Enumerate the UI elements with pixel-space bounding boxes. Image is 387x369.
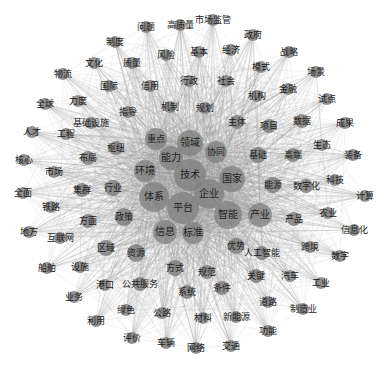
node-label: 全面 — [14, 187, 32, 198]
node-label: 公路 — [153, 307, 171, 318]
node-label: 方式 — [166, 262, 184, 273]
node-label: 成果 — [336, 117, 354, 128]
node-label: 问题 — [137, 21, 155, 32]
node-label: 网络 — [187, 342, 205, 353]
node-label: 规划 — [196, 102, 214, 113]
node-label: 公共服务 — [122, 278, 158, 289]
node-label: 国际 — [100, 81, 118, 91]
node-label: 系统 — [178, 286, 196, 297]
node-label: 基础 — [249, 149, 267, 160]
node-label: 行政 — [180, 75, 198, 86]
node-label: 产品 — [285, 213, 303, 224]
node-label: 产业 — [250, 208, 270, 220]
node-label: 计算 — [356, 190, 374, 201]
node-label: 农业 — [319, 207, 337, 218]
node-label: 市场监管 — [195, 14, 231, 25]
node-label: 枢纽 — [107, 142, 125, 153]
node-label: 人工智能 — [244, 247, 280, 258]
node-label: 材料 — [194, 312, 212, 323]
node-label: 数字化 — [293, 180, 320, 191]
node-label: 信息 — [155, 225, 175, 237]
node-label: 条件 — [213, 282, 231, 293]
node-label: 评价 — [123, 333, 141, 343]
node-label: 指导 — [119, 106, 137, 117]
node-label: 企业 — [199, 187, 219, 199]
node-label: 车辆 — [157, 337, 175, 348]
node-label: 政府 — [244, 29, 262, 40]
node-label: 汽车 — [281, 270, 299, 281]
node-label: 高端 — [284, 149, 302, 160]
node-label: 项目 — [260, 121, 278, 131]
node-label: 绿色 — [117, 304, 135, 315]
node-label: 体系 — [144, 191, 164, 202]
node-label: 质量 — [123, 57, 141, 68]
node-label: 地方 — [20, 226, 38, 237]
node-label: 功能 — [259, 325, 277, 336]
node-label: 社会 — [217, 75, 235, 86]
node-label: 标准 — [183, 227, 203, 238]
node-label: 新能源 — [223, 311, 250, 322]
node-label: 设施 — [71, 261, 89, 272]
node-label: 数字 — [331, 250, 349, 261]
node-label: 模式 — [252, 61, 270, 72]
node-label: 市场 — [45, 166, 63, 177]
node-label: 互联网 — [47, 233, 74, 243]
node-label: 跨境 — [301, 241, 319, 252]
node-label: 国家 — [222, 172, 242, 184]
node-label: 数据 — [293, 115, 311, 126]
node-label: 布局 — [79, 152, 97, 163]
node-label: 方面 — [79, 215, 97, 226]
node-label: 平台 — [173, 201, 193, 213]
node-label: 场景 — [307, 67, 325, 77]
node-label: 规范 — [198, 266, 216, 277]
node-label: 区域 — [97, 242, 115, 253]
node-label: 智能 — [218, 208, 238, 220]
network-graph: 问题高质量市场监管政府制度风险基本经济战略文化质量模式场景物流国际信用行政社会金… — [0, 0, 387, 369]
node-label: 信用 — [141, 80, 159, 91]
node-label: 主体 — [228, 116, 246, 127]
node-label: 核心 — [15, 154, 33, 165]
node-label: 高质量 — [167, 19, 194, 30]
node-label: 领域 — [180, 136, 200, 148]
node-label: 风险 — [157, 49, 175, 60]
node-label: 铁路 — [42, 201, 60, 212]
node-label: 机构 — [248, 90, 266, 101]
node-label: 科技 — [326, 174, 344, 185]
node-label: 金融 — [279, 83, 297, 94]
node-label: 集群 — [73, 184, 91, 195]
node-label: 人才 — [23, 126, 41, 137]
node-label: 港口 — [96, 279, 114, 290]
node-label: 生态 — [313, 139, 331, 150]
node-label: 经济 — [222, 44, 240, 55]
node-label: 基本 — [190, 46, 208, 57]
node-label: 协同 — [207, 146, 225, 157]
node-label: 利用 — [87, 315, 105, 326]
node-label: 技术 — [180, 168, 200, 180]
node-label: 能力 — [161, 151, 181, 163]
node-label: 制造业 — [290, 303, 317, 314]
node-label: 政策 — [115, 211, 133, 222]
node-label: 重点 — [147, 133, 165, 144]
node-label: 试点 — [318, 93, 336, 104]
node-label: 关键 — [247, 270, 265, 281]
node-label: 优势 — [227, 240, 245, 251]
node-label: 制度 — [106, 36, 124, 47]
node-label: 工程 — [57, 129, 75, 139]
node-label: 物流 — [54, 68, 72, 79]
node-label: 环境 — [135, 164, 155, 176]
node-label: 行业 — [104, 182, 122, 193]
node-label: 船舶 — [38, 262, 56, 273]
node-label: 装备 — [344, 149, 362, 160]
node-label: 业务 — [65, 291, 83, 302]
node-label: 能源 — [264, 179, 282, 190]
node-label: 机制 — [161, 101, 179, 112]
node-label: 文化 — [85, 57, 103, 68]
node-label: 基础设施 — [73, 117, 109, 128]
node-label: 信息化 — [341, 224, 368, 235]
node-label: 交通 — [222, 340, 240, 351]
node-label: 工业 — [312, 278, 330, 288]
node-label: 道路 — [259, 296, 277, 307]
node-label: 战略 — [280, 46, 298, 57]
node-label: 全球 — [36, 98, 54, 109]
node-label: 力度 — [69, 95, 87, 106]
